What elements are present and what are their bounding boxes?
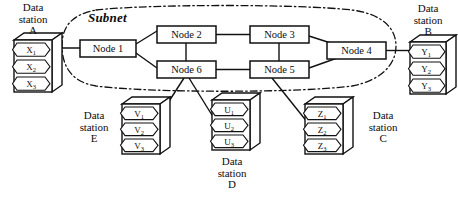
link-node5-stationC [272,78,308,123]
station-cell-stationA-3: X3 [13,79,49,89]
station-cell-stationA-2: X2 [13,62,49,72]
network-diagram: Subnet Node 1 Node 2 Node 3 Node 4 Node … [0,0,458,205]
station-cell-stationB-1: Y1 [409,47,443,57]
station-label-stationB: Data station B [400,3,456,38]
link-node1-node2 [136,31,157,44]
station-label-stationA: Data station A [3,2,63,37]
station-cell-stationE-2: V2 [121,125,157,135]
node-label-node1: Node 1 [80,43,136,54]
station-label-stationD: Data station D [203,156,261,191]
node-label-node6: Node 6 [157,64,216,75]
station-cell-stationC-1: Z1 [304,109,340,119]
station-cell-stationC-2: Z2 [304,125,340,135]
station-label-stationC: Data station C [355,110,411,145]
link-node1-node6 [136,53,157,68]
station-cell-stationE-3: V3 [121,141,157,151]
station-cell-stationC-3: Z3 [304,141,340,151]
station-cell-stationB-2: Y2 [409,64,443,74]
node-label-node4: Node 4 [327,45,386,56]
station-label-stationE: Data station E [66,110,122,145]
station-cell-stationD-2: U2 [211,121,247,131]
station-cell-stationD-1: U1 [211,105,247,115]
station-cell-stationA-1: X1 [13,45,49,55]
node-label-node3: Node 3 [250,29,309,40]
station-cell-stationB-3: Y3 [409,81,443,91]
node-label-node5: Node 5 [250,64,309,75]
node-label-node2: Node 2 [157,29,216,40]
station-cell-stationE-1: V1 [121,109,157,119]
station-cell-stationD-3: U3 [211,137,247,147]
subnet-label: Subnet [88,10,127,26]
